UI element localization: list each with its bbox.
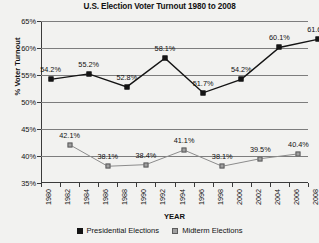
x-axis-tick	[98, 183, 99, 187]
x-axis-tick	[41, 183, 42, 187]
data-point-label: 39.5%	[250, 145, 271, 154]
data-point-marker	[162, 56, 167, 61]
data-point-label: 52.8%	[116, 73, 137, 82]
y-axis-tick-label: 60%	[21, 44, 36, 53]
x-axis-tick-label: 2008	[311, 189, 319, 205]
x-axis-tick	[232, 183, 233, 187]
x-axis-tick-label: 2004	[273, 189, 282, 205]
x-axis-tick-label: 1986	[101, 189, 110, 205]
data-point-marker	[277, 45, 282, 50]
x-axis-tick-label: 1996	[197, 189, 206, 205]
data-point-label: 38.4%	[136, 151, 157, 160]
y-axis-tick-label: 35%	[21, 179, 36, 188]
x-axis-tick	[289, 183, 290, 187]
legend-swatch-icon	[77, 228, 83, 234]
legend-entry[interactable]: Midterm Elections	[172, 226, 242, 235]
data-point-marker	[143, 162, 148, 167]
y-axis-title: % Voter Turnout	[13, 12, 22, 122]
x-axis-tick	[79, 183, 80, 187]
data-point-marker	[201, 90, 206, 95]
data-point-label: 40.4%	[288, 140, 309, 149]
x-axis-tick-label: 1990	[139, 189, 148, 205]
data-point-marker	[105, 164, 110, 169]
y-axis-tick-label: 55%	[21, 71, 36, 80]
x-axis-tick	[136, 183, 137, 187]
data-point-marker	[296, 151, 301, 156]
data-point-label: 58.1%	[155, 44, 176, 53]
chart-title: U.S. Election Voter Turnout 1980 to 2008	[0, 2, 319, 11]
data-point-marker	[239, 77, 244, 82]
data-point-label: 55.2%	[78, 60, 99, 69]
data-point-marker	[182, 148, 187, 153]
data-point-marker	[86, 71, 91, 76]
x-axis-tick-label: 1992	[158, 189, 167, 205]
data-point-label: 41.1%	[174, 136, 195, 145]
x-axis-tick-label: 1982	[63, 189, 72, 205]
x-axis-tick-label: 2006	[292, 189, 301, 205]
data-point-marker	[48, 77, 53, 82]
x-axis-tick	[251, 183, 252, 187]
y-axis-tick-label: 50%	[21, 98, 36, 107]
x-axis-tick-label: 1984	[82, 189, 91, 205]
x-axis-tick	[117, 183, 118, 187]
legend-label: Presidential Elections	[87, 226, 160, 235]
legend-entry[interactable]: Presidential Elections	[77, 226, 160, 235]
x-axis-tick	[194, 183, 195, 187]
legend-swatch-icon	[172, 228, 178, 234]
voter-turnout-chart: U.S. Election Voter Turnout 1980 to 2008…	[0, 0, 319, 243]
x-axis-tick	[308, 183, 309, 187]
data-point-label: 51.7%	[193, 79, 214, 88]
x-axis-tick	[213, 183, 214, 187]
data-point-marker	[67, 142, 72, 147]
x-axis-tick-label: 1988	[120, 189, 129, 205]
data-point-label: 61.6%	[307, 25, 319, 34]
data-point-marker	[124, 84, 129, 89]
x-axis-tick-label: 2002	[254, 189, 263, 205]
data-point-marker	[258, 156, 263, 161]
data-point-label: 38.1%	[212, 152, 233, 161]
data-point-label: 54.2%	[231, 65, 252, 74]
x-axis-tick-label: 1980	[44, 189, 53, 205]
x-axis-tick-label: 1994	[178, 189, 187, 205]
x-axis-tick-label: 1998	[216, 189, 225, 205]
y-axis-tick-label: 40%	[21, 152, 36, 161]
data-point-marker	[315, 37, 319, 42]
x-axis-tick	[175, 183, 176, 187]
data-point-label: 60.1%	[269, 33, 290, 42]
y-axis-tick-label: 65%	[21, 17, 36, 26]
x-axis-tick	[270, 183, 271, 187]
y-axis-tick-label: 45%	[21, 125, 36, 134]
data-point-label: 54.2%	[40, 65, 61, 74]
data-point-label: 42.1%	[59, 131, 80, 140]
data-point-marker	[220, 164, 225, 169]
x-axis-title: YEAR	[41, 212, 308, 221]
legend-label: Midterm Elections	[182, 226, 242, 235]
plot-area: 65%60%55%50%45%40%35% 198019821984198619…	[41, 21, 308, 183]
chart-legend: Presidential ElectionsMidterm Elections	[0, 226, 319, 235]
data-point-label: 38.1%	[97, 152, 118, 161]
x-axis-tick-label: 2000	[235, 189, 244, 205]
x-axis-tick	[60, 183, 61, 187]
x-axis-tick	[155, 183, 156, 187]
